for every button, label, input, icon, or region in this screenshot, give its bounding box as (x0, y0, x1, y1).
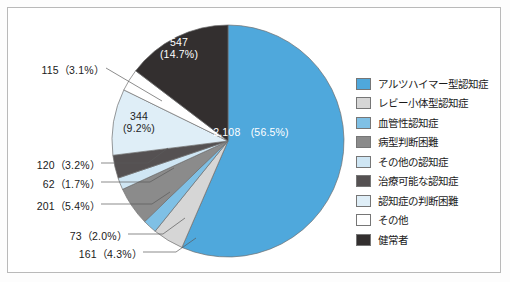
legend-label: 血管性認知症 (378, 117, 438, 129)
slice-label-alzheimer: 2,108 (56.5%) (196, 126, 306, 138)
legend-item[interactable]: レビー小体型認知症 (356, 94, 502, 114)
legend-item[interactable]: その他 (356, 211, 502, 231)
slice-label-alzheimer-text: 2,108 (56.5%) (196, 126, 306, 138)
slice-label-healthy-percent: (14.7%) (144, 48, 214, 60)
legend-label: レビー小体型認知症 (378, 97, 468, 109)
legend-label: アルツハイマー型認知症 (378, 78, 488, 90)
legend-swatch (356, 156, 371, 168)
slice-label-other-dementia: 344 (9.2%) (104, 110, 174, 134)
callout-115: 115（3.1%） (0, 62, 104, 77)
legend-swatch (356, 117, 371, 129)
legend-label: その他の認知症 (378, 156, 448, 168)
legend-item[interactable]: アルツハイマー型認知症 (356, 74, 502, 94)
slice-label-healthy-value: 547 (144, 36, 214, 48)
callout-120: 120（3.2%） (0, 157, 100, 172)
slice-label-other-dementia-percent: (9.2%) (104, 122, 174, 134)
legend-item[interactable]: 治療可能な認知症 (356, 172, 502, 192)
legend-swatch (356, 195, 371, 207)
legend-item[interactable]: 健常者 (356, 230, 502, 250)
legend-label: 治療可能な認知症 (378, 175, 458, 187)
slice-label-other-dementia-value: 344 (104, 110, 174, 122)
legend-label: その他 (378, 214, 408, 226)
slice-label-healthy: 547 (14.7%) (144, 36, 214, 60)
callout-161: 161（4.3%） (34, 246, 142, 261)
legend-label: 健常者 (378, 234, 408, 246)
legend-swatch (356, 97, 371, 109)
callout-62: 62（1.7%） (0, 176, 100, 191)
legend-label: 病型判断困難 (378, 136, 438, 148)
legend-swatch (356, 175, 371, 187)
legend-item[interactable]: 認知症の判断困難 (356, 191, 502, 211)
legend-item[interactable]: 病型判断困難 (356, 133, 502, 153)
legend-swatch (356, 136, 371, 148)
pie-chart-figure: 2,108 (56.5%) 547 (14.7%) 344 (9.2%) 115… (0, 0, 510, 282)
legend-label: 認知症の判断困難 (378, 195, 458, 207)
legend-swatch (356, 214, 371, 226)
legend-item[interactable]: 血管性認知症 (356, 113, 502, 133)
chart-legend: アルツハイマー型認知症レビー小体型認知症血管性認知症病型判断困難その他の認知症治… (356, 74, 502, 250)
legend-item[interactable]: その他の認知症 (356, 152, 502, 172)
callout-73: 73（2.0%） (20, 228, 127, 243)
callout-201: 201（5.4%） (0, 198, 100, 213)
legend-swatch (356, 234, 371, 246)
legend-swatch (356, 78, 371, 90)
